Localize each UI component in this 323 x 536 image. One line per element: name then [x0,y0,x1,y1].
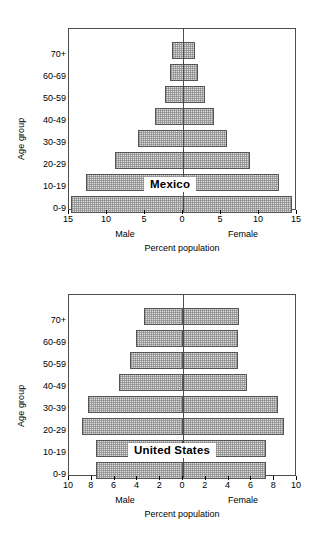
bar-usa-female-70plus [183,308,239,325]
y-tick-usa-20-29: 20-29 [22,425,66,435]
x-ticklabel-usa-8l: 8 [79,480,103,491]
y-tick-mexico-10-19: 10-19 [22,181,66,191]
y-tick-usa-60-69: 60-69 [22,337,66,347]
x-ticklabel-mexico-15r: 15 [284,214,308,225]
bar-mexico-male-40-49 [155,108,184,125]
y-tick-usa-50-59: 50-59 [22,359,66,369]
bar-usa-female-40-49 [183,374,247,391]
bar-mexico-male-0-9 [71,196,185,213]
country-label-mexico: Mexico [144,177,196,192]
y-tick-mexico-50-59: 50-59 [22,93,66,103]
x-ticklabel-usa-0: 0 [170,480,194,491]
x-ticklabel-mexico-5r: 5 [208,214,232,225]
y-tick-usa-10-19: 10-19 [22,447,66,457]
bar-usa-male-30-39 [88,396,183,413]
x-ticklabel-usa-2r: 2 [193,480,217,491]
bar-usa-female-60-69 [183,330,238,347]
x-ticklabel-usa-10r: 10 [284,480,308,491]
female-label-mexico: Female [213,229,273,239]
bar-mexico-female-0-9 [183,196,292,213]
x-ticklabel-mexico-10r: 10 [246,214,270,225]
x-ticklabel-usa-8r: 8 [261,480,285,491]
bar-mexico-male-30-39 [138,130,184,147]
x-ticklabel-mexico-15l: 15 [56,214,80,225]
y-tick-usa-0-9: 0-9 [22,469,66,479]
bar-mexico-female-10-19 [183,174,279,191]
y-tick-mexico-0-9: 0-9 [22,203,66,213]
population-pyramid-mexico: Age group 70+ 60-69 50-59 40-49 30-39 20… [0,0,323,262]
bar-mexico-female-30-39 [183,130,227,147]
bar-usa-female-0-9 [183,462,266,479]
male-label-mexico: Male [95,229,155,239]
y-tick-mexico-40-49: 40-49 [22,115,66,125]
bar-usa-female-30-39 [183,396,278,413]
x-ticklabel-usa-4l: 4 [124,480,148,491]
plot-area-usa: United States [68,294,296,476]
country-label-usa: United States [128,443,216,458]
bar-mexico-female-40-49 [183,108,214,125]
x-ticklabel-usa-6l: 6 [102,480,126,491]
bar-usa-male-60-69 [136,330,183,347]
y-tick-labels-mexico: 70+ 60-69 50-59 40-49 30-39 20-29 10-19 … [22,28,66,210]
y-tick-labels-usa: 70+ 60-69 50-59 40-49 30-39 20-29 10-19 … [22,294,66,476]
y-tick-usa-70plus: 70+ [22,315,66,325]
bar-usa-male-70plus [144,308,183,325]
bar-mexico-male-50-59 [165,86,184,103]
bar-mexico-male-60-69 [170,64,184,81]
bar-usa-male-40-49 [119,374,183,391]
y-tick-usa-30-39: 30-39 [22,403,66,413]
female-label-usa: Female [213,495,273,505]
y-tick-mexico-20-29: 20-29 [22,159,66,169]
bar-usa-female-50-59 [183,352,238,369]
y-tick-mexico-70plus: 70+ [22,49,66,59]
bar-usa-male-0-9 [96,462,183,479]
x-ticklabel-mexico-10l: 10 [94,214,118,225]
bar-usa-female-20-29 [183,418,284,435]
bar-mexico-female-70plus [183,42,195,59]
y-tick-mexico-60-69: 60-69 [22,71,66,81]
x-ticklabel-usa-4r: 4 [216,480,240,491]
y-tick-mexico-30-39: 30-39 [22,137,66,147]
x-ticklabel-usa-2l: 2 [147,480,171,491]
male-label-usa: Male [95,495,155,505]
x-ticklabel-usa-6r: 6 [238,480,262,491]
y-tick-usa-40-49: 40-49 [22,381,66,391]
bar-usa-male-50-59 [130,352,183,369]
plot-area-mexico: Mexico [68,28,296,210]
x-ticklabel-mexico-5l: 5 [132,214,156,225]
bar-mexico-female-20-29 [183,152,250,169]
bar-usa-male-20-29 [82,418,184,435]
x-axis-title-mexico: Percent population [82,243,282,253]
x-ticklabel-mexico-0: 0 [170,214,194,225]
bar-mexico-female-50-59 [183,86,205,103]
bar-mexico-female-60-69 [183,64,198,81]
bar-mexico-male-20-29 [115,152,184,169]
x-ticklabel-usa-10l: 10 [56,480,80,491]
population-pyramid-united-states: Age group 70+ 60-69 50-59 40-49 30-39 20… [0,262,323,536]
x-axis-title-usa: Percent population [82,509,282,519]
